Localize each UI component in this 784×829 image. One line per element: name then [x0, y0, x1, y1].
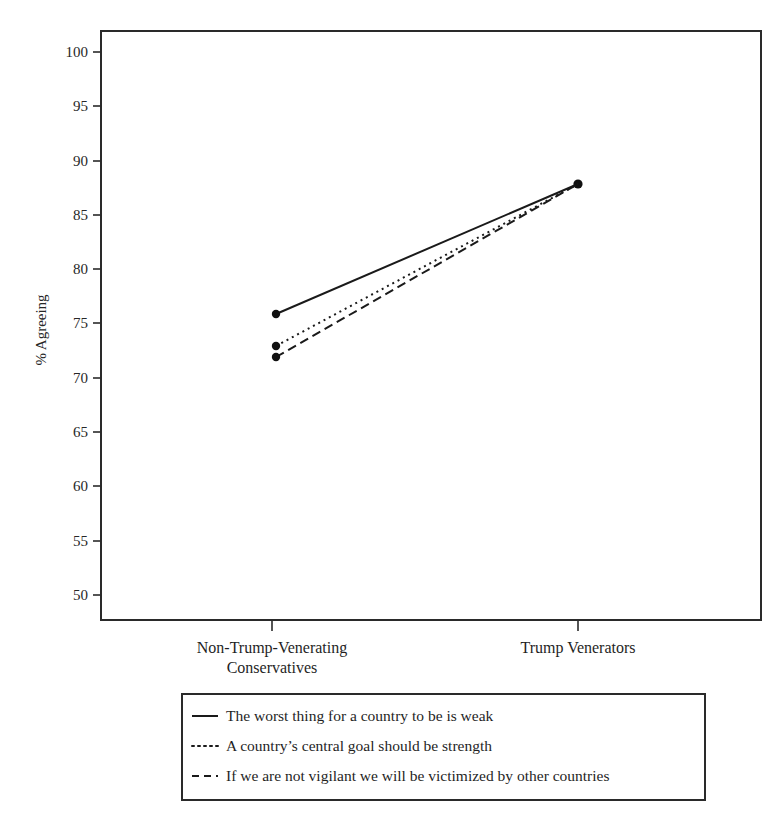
line-chart: 100 95 90 85 80 75 70 65 60 55 50 % Agre… [0, 0, 784, 829]
x-tick-label-group-1-line-1: Non-Trump-Venerating [197, 639, 348, 657]
legend: The worst thing for a country to be is w… [182, 694, 705, 800]
y-tick-label: 55 [73, 533, 88, 549]
legend-entry-solid[interactable]: The worst thing for a country to be is w… [192, 707, 494, 724]
y-tick-label: 60 [73, 478, 88, 494]
legend-entry-dashed[interactable]: If we are not vigilant we will be victim… [192, 767, 610, 784]
y-tick-label: 95 [73, 98, 88, 114]
plot-frame [101, 31, 761, 620]
series-a-countrys-central-goal-should-be-strength [272, 184, 578, 350]
series-line-dotted [276, 184, 578, 346]
data-point-marker [272, 342, 280, 350]
y-tick-label: 50 [73, 587, 88, 603]
y-tick-label: 70 [73, 370, 88, 386]
legend-entry-dotted[interactable]: A country’s central goal should be stren… [192, 737, 492, 754]
y-tick-label: 100 [66, 44, 89, 60]
figure-canvas: 100 95 90 85 80 75 70 65 60 55 50 % Agre… [0, 0, 784, 829]
x-tick-label-group-2-line-1: Trump Venerators [520, 639, 635, 657]
series-if-we-are-not-vigilant-we-will-be-victimized-by-other-countries [272, 184, 578, 361]
y-tick-label: 85 [73, 207, 88, 223]
x-axis: Non-Trump-Venerating Conservatives Trump… [197, 620, 636, 676]
y-tick-label: 65 [73, 424, 88, 440]
y-tick-label: 90 [73, 153, 88, 169]
legend-entry-label: The worst thing for a country to be is w… [226, 707, 494, 724]
data-point-marker [272, 353, 280, 361]
y-tick-label: 80 [73, 261, 88, 277]
legend-entry-label: If we are not vigilant we will be victim… [226, 767, 610, 784]
series-line-solid [276, 184, 578, 314]
series-line-dashed [276, 184, 578, 357]
legend-entry-label: A country’s central goal should be stren… [226, 737, 492, 754]
y-axis-title: % Agreeing [33, 294, 49, 366]
y-tick-label: 75 [73, 315, 88, 331]
x-tick-label-group-1-line-2: Conservatives [227, 659, 318, 676]
data-point-marker [272, 310, 280, 318]
y-axis: 100 95 90 85 80 75 70 65 60 55 50 [66, 44, 102, 603]
series-the-worst-thing-for-a-country-to-be-is-weak [272, 179, 583, 318]
